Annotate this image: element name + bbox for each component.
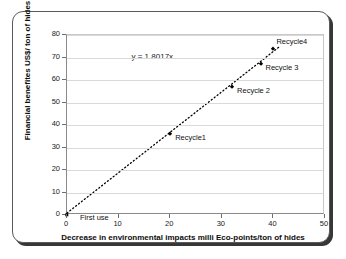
gridline-horizontal: [67, 103, 323, 104]
x-tick-mark: [272, 214, 273, 218]
x-tick-mark: [324, 214, 325, 218]
x-tick-mark: [66, 214, 67, 218]
x-axis-title: Decrease in environmental impacts milli …: [33, 233, 333, 242]
data-point-label: Recycle4: [276, 38, 307, 46]
y-tick-label: 0: [56, 210, 60, 218]
data-point-label: Recycle1: [175, 134, 206, 142]
x-tick-mark: [169, 214, 170, 218]
data-point-label: Recycle 3: [266, 64, 299, 72]
gridline-horizontal: [67, 58, 323, 59]
x-tick-mark: [221, 214, 222, 218]
y-axis-ticks: 01020304050607080: [13, 34, 66, 214]
gridline-horizontal: [67, 80, 323, 81]
x-tick-mark: [118, 214, 119, 218]
x-tick-label: 10: [113, 220, 121, 228]
x-tick-label: 50: [320, 220, 328, 228]
y-tick-label: 70: [52, 53, 60, 61]
x-tick-label: 30: [217, 220, 225, 228]
chart-outer-frame: Financial benefites US$/ ton of hides 01…: [12, 11, 330, 243]
y-tick-label: 20: [52, 165, 60, 173]
plot-area: y = 1.8017x First useRecycle1Recycle 2Re…: [66, 34, 324, 214]
gridline-horizontal: [67, 148, 323, 149]
gridline-horizontal: [67, 193, 323, 194]
trendline: [67, 35, 323, 213]
y-tick-label: 30: [52, 143, 60, 151]
y-tick-label: 80: [52, 30, 60, 38]
y-tick-label: 40: [52, 120, 60, 128]
gridline-horizontal: [67, 170, 323, 171]
y-tick-label: 60: [52, 75, 60, 83]
gridline-horizontal: [67, 35, 323, 36]
x-tick-label: 20: [165, 220, 173, 228]
x-tick-label: 0: [64, 220, 68, 228]
y-tick-label: 10: [52, 188, 60, 196]
chart-screenshot: Financial benefites US$/ ton of hides 01…: [0, 0, 346, 259]
gridline-horizontal: [67, 125, 323, 126]
x-tick-label: 40: [268, 220, 276, 228]
data-point-label: Recycle 2: [237, 87, 270, 95]
y-tick-label: 50: [52, 98, 60, 106]
